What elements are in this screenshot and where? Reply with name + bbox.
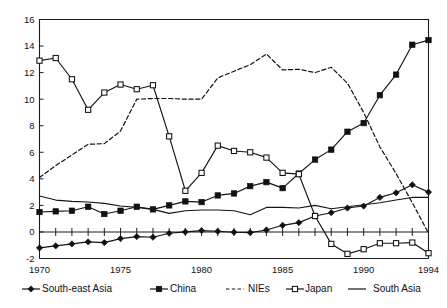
y-tick-label: 0	[29, 226, 34, 237]
series-point	[69, 208, 74, 213]
legend-item-label: China	[170, 283, 197, 294]
series-point	[312, 213, 317, 218]
legend-swatch-marker	[292, 286, 297, 291]
series-point	[118, 208, 123, 213]
series-point	[329, 147, 334, 152]
series-south-asia	[40, 196, 429, 215]
series-point	[102, 211, 107, 216]
series-point	[134, 87, 139, 92]
chart-legend: South-east AsiaChinaNIEsJapanSouth Asia	[22, 283, 421, 294]
y-tick-label: 10	[24, 94, 35, 105]
y-tick-label: 8	[29, 120, 34, 131]
series-point	[361, 203, 367, 209]
x-tick-label: 1994	[418, 264, 439, 275]
series-point	[393, 190, 399, 196]
series-point	[361, 120, 366, 125]
legend-item-nies[interactable]: NIEs	[226, 283, 270, 294]
series-point	[101, 239, 107, 245]
legend-item-label: South-east Asia	[42, 283, 112, 294]
series-point	[215, 228, 221, 234]
series-point	[166, 230, 172, 236]
series-point	[182, 229, 188, 235]
series-point	[345, 251, 350, 256]
series-layer	[36, 37, 431, 256]
series-point	[410, 240, 415, 245]
series-point	[86, 107, 91, 112]
series-point	[36, 245, 42, 251]
series-point	[280, 185, 285, 190]
series-point	[117, 235, 123, 241]
series-point	[167, 134, 172, 139]
series-point	[150, 83, 155, 88]
series-china	[37, 37, 431, 216]
series-point	[296, 220, 302, 226]
y-tick-label: 14	[24, 40, 35, 51]
legend-item-label: South Asia	[373, 283, 421, 294]
series-point	[198, 228, 204, 234]
series-point	[425, 189, 431, 195]
series-point	[264, 155, 269, 160]
series-point	[231, 191, 236, 196]
series-point	[183, 188, 188, 193]
line-chart: -20246810121416 197019751980198519901994…	[0, 0, 447, 308]
y-tick-label: -2	[26, 253, 34, 264]
legend-item-japan[interactable]: Japan	[286, 283, 332, 294]
legend-swatch-marker	[156, 286, 161, 291]
series-line	[40, 58, 429, 254]
legend-item-china[interactable]: China	[150, 283, 197, 294]
series-point	[69, 77, 74, 82]
legend-item-label: NIEs	[248, 283, 270, 294]
series-point	[199, 199, 204, 204]
plot-frame	[40, 20, 429, 259]
series-point	[231, 229, 237, 235]
series-point	[53, 55, 58, 60]
series-point	[409, 182, 415, 188]
series-point	[166, 203, 171, 208]
legend-item-south-asia[interactable]: South Asia	[348, 283, 421, 294]
series-line	[40, 54, 429, 233]
series-point	[37, 58, 42, 63]
chart-container: -20246810121416 197019751980198519901994…	[0, 0, 447, 308]
series-point	[248, 150, 253, 155]
series-point	[69, 241, 75, 247]
series-point	[296, 172, 301, 177]
series-point	[377, 92, 382, 97]
series-point	[280, 222, 286, 228]
x-tick-label: 1970	[29, 264, 50, 275]
series-point	[215, 193, 220, 198]
series-point	[377, 241, 382, 246]
y-tick-label: 12	[24, 67, 35, 78]
series-point	[53, 243, 59, 249]
series-point	[85, 204, 90, 209]
series-point	[344, 205, 350, 211]
series-point	[150, 234, 156, 240]
x-axis: 197019751980198519901994	[29, 259, 439, 275]
y-tick-label: 2	[29, 200, 34, 211]
series-point	[377, 194, 383, 200]
y-tick-label: 4	[29, 173, 34, 184]
series-nies	[40, 54, 429, 233]
series-point	[53, 209, 58, 214]
series-point	[280, 170, 285, 175]
series-point	[393, 241, 398, 246]
y-axis: -20246810121416	[24, 14, 44, 264]
x-tick-label: 1980	[191, 264, 212, 275]
series-point	[410, 42, 415, 47]
x-tick-label: 1985	[272, 264, 293, 275]
series-point	[199, 170, 204, 175]
series-point	[215, 143, 220, 148]
series-point	[37, 209, 42, 214]
series-point	[329, 241, 334, 246]
series-point	[183, 199, 188, 204]
series-point	[134, 233, 140, 239]
legend-item-south-east-asia[interactable]: South-east Asia	[22, 283, 112, 294]
y-tick-label: 16	[24, 14, 35, 25]
legend-swatch-marker	[28, 286, 34, 292]
series-point	[102, 90, 107, 95]
series-point	[248, 183, 253, 188]
series-point	[231, 148, 236, 153]
x-tick-label: 1975	[110, 264, 131, 275]
series-point	[118, 82, 123, 87]
series-point	[393, 72, 398, 77]
series-point	[345, 129, 350, 134]
